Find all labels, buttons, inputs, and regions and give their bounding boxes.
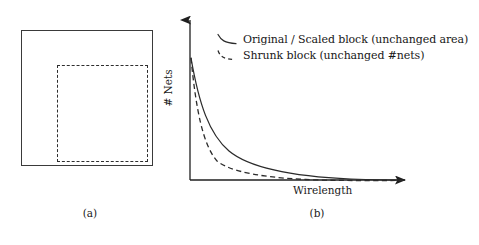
shrunk-block-outline bbox=[57, 65, 148, 162]
figure-root: (a) # Nets Wirelength bbox=[0, 0, 479, 245]
legend-item-original: Original / Scaled block (unchanged area) bbox=[217, 31, 477, 47]
solid-curve-icon bbox=[217, 32, 237, 46]
legend-item-shrunk: Shrunk block (unchanged #nets) bbox=[217, 47, 477, 63]
panel-b-caption: (b) bbox=[155, 207, 479, 219]
dashed-curve-icon bbox=[217, 48, 237, 62]
y-axis-label: # Nets bbox=[162, 58, 174, 118]
legend-label-shrunk: Shrunk block (unchanged #nets) bbox=[243, 49, 424, 62]
nets-vs-wirelength-plot bbox=[155, 0, 479, 200]
curve-shrunk-block bbox=[191, 58, 401, 181]
legend-label-original: Original / Scaled block (unchanged area) bbox=[243, 33, 468, 46]
x-axis-label: Wirelength bbox=[293, 184, 352, 196]
panel-a-caption: (a) bbox=[0, 207, 180, 219]
panel-a: (a) bbox=[0, 0, 180, 245]
curve-original-scaled-block bbox=[191, 58, 403, 180]
plot-legend: Original / Scaled block (unchanged area)… bbox=[217, 31, 477, 63]
